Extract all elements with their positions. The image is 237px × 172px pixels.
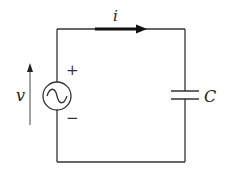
ac-voltage-source <box>43 82 71 110</box>
capacitor-label: C <box>204 87 216 106</box>
arrow-head-icon <box>136 25 147 34</box>
plus-sign: + <box>66 61 79 79</box>
circuit-diagram: i v C + − <box>0 0 237 172</box>
capacitor <box>171 91 199 99</box>
current-arrow <box>95 25 147 34</box>
voltage-arrow <box>27 63 33 125</box>
current-label: i <box>113 7 118 25</box>
minus-sign: − <box>66 109 79 127</box>
arrow-up-icon <box>27 63 33 72</box>
voltage-label: v <box>16 86 25 105</box>
circuit-wires <box>57 29 185 162</box>
